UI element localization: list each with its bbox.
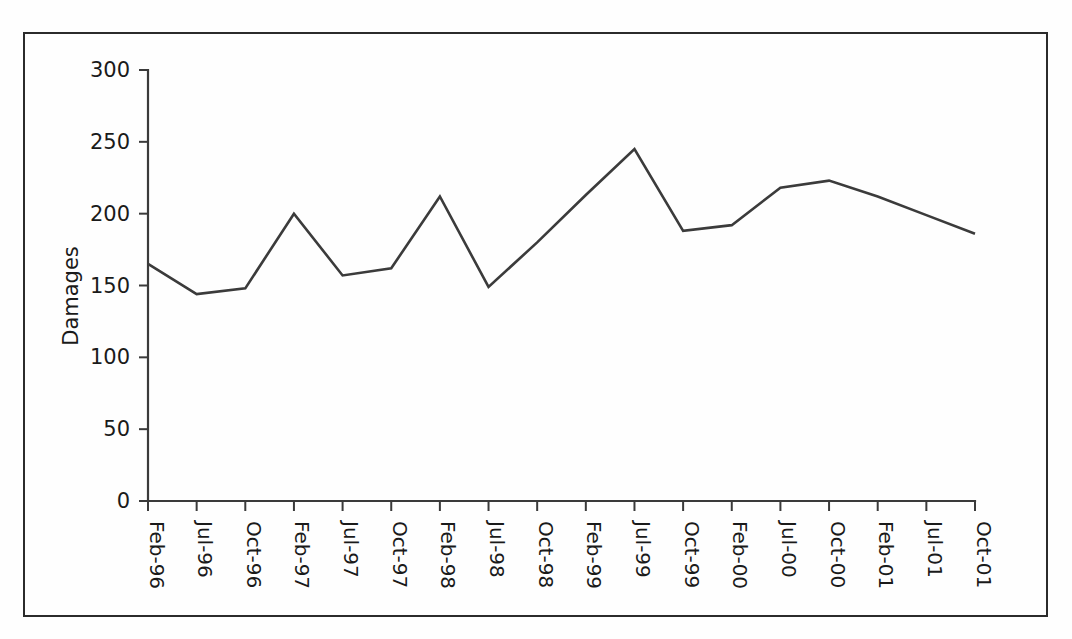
x-tick-label: Feb-00 [728, 521, 752, 589]
y-tick-label: 100 [90, 345, 130, 369]
x-tick-label: Jul-99 [631, 519, 655, 578]
y-tick-label: 300 [90, 58, 130, 82]
x-tick-label: Jul-96 [193, 519, 217, 578]
data-series-group [148, 149, 975, 294]
axis-labels-group: Damages [59, 246, 83, 346]
x-tick-label: Oct-97 [388, 521, 412, 588]
y-axis: 050100150200250300 [90, 58, 148, 513]
x-tick-label: Oct-96 [242, 521, 266, 588]
x-tick-label: Oct-01 [972, 521, 996, 588]
x-tick-label: Feb-01 [874, 521, 898, 589]
x-tick-label: Jul-98 [485, 519, 509, 578]
x-tick-label: Feb-96 [145, 521, 169, 589]
x-tick-label: Oct-99 [680, 521, 704, 588]
x-tick-label: Jul-01 [923, 519, 947, 578]
y-axis-title: Damages [59, 246, 83, 346]
x-axis: Feb-96Jul-96Oct-96Feb-97Jul-97Oct-97Feb-… [145, 501, 996, 589]
x-tick-label: Oct-98 [534, 521, 558, 588]
y-tick-label: 50 [103, 417, 130, 441]
y-tick-label: 150 [90, 274, 130, 298]
x-tick-label: Feb-98 [436, 521, 460, 589]
y-tick-label: 200 [90, 202, 130, 226]
y-tick-label: 0 [117, 489, 130, 513]
x-tick-label: Feb-97 [290, 521, 314, 589]
x-tick-label: Oct-00 [826, 521, 850, 588]
line-chart: 050100150200250300 Feb-96Jul-96Oct-96Feb… [0, 0, 1072, 639]
x-tick-label: Feb-99 [582, 521, 606, 589]
y-tick-label: 250 [90, 130, 130, 154]
data-series-1 [148, 149, 975, 294]
x-tick-label: Jul-00 [777, 519, 801, 578]
x-tick-label: Jul-97 [339, 519, 363, 578]
chart-page: 050100150200250300 Feb-96Jul-96Oct-96Feb… [0, 0, 1072, 639]
